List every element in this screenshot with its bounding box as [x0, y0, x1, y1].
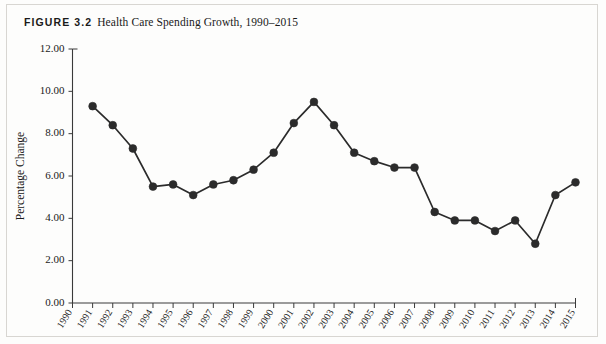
y-tick-label: 10.00	[40, 84, 65, 96]
x-tick-label: 2010	[457, 307, 477, 330]
y-axis-label: Percentage Change	[14, 132, 27, 220]
x-tick-label: 2004	[336, 307, 356, 330]
data-point-marker	[310, 98, 318, 106]
x-tick-label: 1996	[175, 307, 195, 330]
x-tick-label: 2015	[557, 307, 577, 330]
x-tick-label: 2009	[437, 307, 457, 330]
x-tick-label: 1995	[155, 307, 175, 330]
x-tick-label: 2014	[537, 307, 557, 330]
chart-plot-area: 0.002.004.006.008.0010.0012.00 199019911…	[0, 0, 606, 344]
data-point-marker	[551, 191, 559, 199]
data-point-marker	[491, 227, 499, 235]
x-axis: 1990199119921993199419951996199719981999…	[54, 298, 577, 330]
data-series	[89, 98, 580, 248]
data-point-marker	[531, 240, 539, 248]
x-tick-label: 1993	[115, 307, 135, 330]
x-tick-label: 2012	[497, 307, 517, 330]
data-point-marker	[129, 145, 137, 153]
data-point-marker	[391, 164, 399, 172]
x-tick-label: 2002	[296, 307, 316, 330]
data-point-marker	[290, 119, 298, 127]
x-tick-label: 1997	[195, 307, 215, 330]
data-point-marker	[431, 208, 439, 216]
data-point-marker	[411, 164, 419, 172]
data-point-marker	[471, 217, 479, 225]
x-tick-label: 2008	[416, 307, 436, 330]
y-tick-label: 2.00	[45, 253, 65, 265]
x-tick-label: 2000	[255, 307, 275, 330]
data-point-marker	[89, 102, 97, 110]
data-point-marker	[149, 183, 157, 191]
data-point-marker	[270, 149, 278, 157]
y-axis: 0.002.004.006.008.0010.0012.00	[40, 42, 78, 308]
data-point-marker	[511, 217, 519, 225]
x-tick-label: 1999	[235, 307, 255, 330]
data-point-marker	[230, 176, 238, 184]
x-tick-label: 1991	[74, 307, 94, 330]
y-tick-label: 6.00	[45, 169, 65, 181]
y-tick-label: 12.00	[40, 42, 65, 54]
data-point-marker	[451, 217, 459, 225]
data-point-marker	[370, 157, 378, 165]
x-tick-label: 2005	[356, 307, 376, 330]
figure-container: FIGURE 3.2Health Care Spending Growth, 1…	[0, 0, 606, 344]
x-tick-label: 2013	[517, 307, 537, 330]
y-axis-title: Percentage Change	[14, 132, 27, 220]
data-point-marker	[572, 178, 580, 186]
x-tick-label: 2011	[477, 307, 497, 329]
x-tick-label: 2007	[396, 307, 416, 330]
y-tick-label: 8.00	[45, 126, 65, 138]
data-point-marker	[169, 181, 177, 189]
x-tick-label: 1994	[135, 307, 155, 330]
line-chart: 0.002.004.006.008.0010.0012.00 199019911…	[0, 0, 606, 344]
x-tick-label: 2003	[316, 307, 336, 330]
data-point-marker	[209, 181, 217, 189]
x-tick-label: 1992	[95, 307, 115, 330]
x-tick-label: 2001	[276, 307, 296, 330]
y-tick-label: 4.00	[45, 211, 65, 223]
data-point-marker	[250, 166, 258, 174]
x-tick-label: 2006	[376, 307, 396, 330]
y-tick-label: 0.00	[45, 296, 65, 308]
data-point-marker	[330, 121, 338, 129]
data-point-marker	[350, 149, 358, 157]
x-tick-label: 1990	[54, 307, 74, 330]
data-point-marker	[189, 191, 197, 199]
x-tick-label: 1998	[215, 307, 235, 330]
data-point-marker	[109, 121, 117, 129]
